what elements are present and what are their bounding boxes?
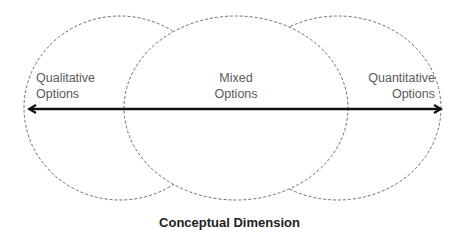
- mixed-line1: Mixed: [186, 70, 286, 86]
- mixed-line2: Options: [186, 86, 286, 102]
- quantitative-line1: Quantitative: [368, 70, 435, 86]
- quantitative-options-label: Quantitative Options: [368, 70, 435, 102]
- qualitative-line2: Options: [36, 86, 95, 102]
- qualitative-options-label: Qualitative Options: [36, 70, 95, 102]
- diagram-caption: Conceptual Dimension: [0, 215, 459, 230]
- mixed-options-label: Mixed Options: [186, 70, 286, 102]
- quantitative-line2: Options: [368, 86, 435, 102]
- qualitative-line1: Qualitative: [36, 70, 95, 86]
- conceptual-dimension-diagram: [0, 0, 459, 235]
